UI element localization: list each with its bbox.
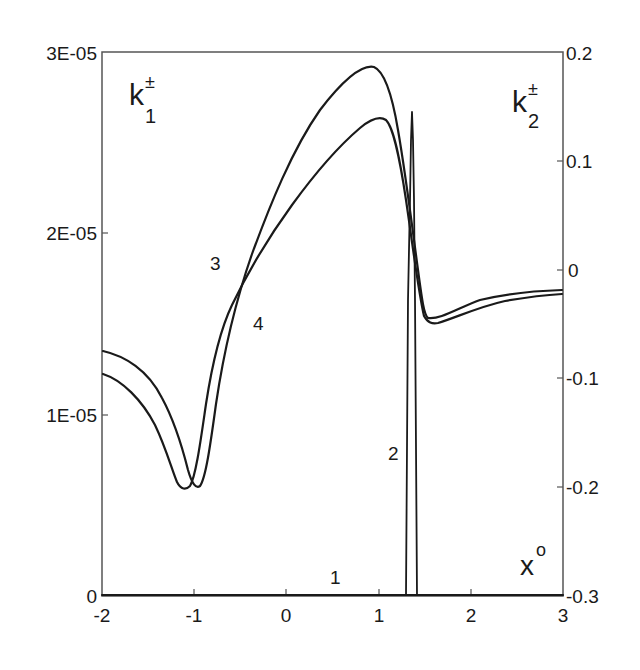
svg-text:0: 0 (86, 586, 97, 607)
svg-text:±: ± (145, 72, 155, 92)
svg-text:-0.2: -0.2 (566, 477, 599, 498)
right-axis-label: k ± 2 (512, 79, 539, 132)
svg-text:-2: -2 (94, 605, 111, 626)
curve-label-3: 3 (210, 253, 221, 274)
svg-text:1: 1 (145, 105, 156, 127)
svg-text:-0.1: -0.1 (566, 368, 599, 389)
svg-text:-0.3: -0.3 (566, 586, 599, 607)
curve-label-2: 2 (388, 443, 399, 464)
curve-3 (103, 67, 562, 487)
svg-text:1E-05: 1E-05 (46, 405, 97, 426)
svg-text:0.2: 0.2 (566, 43, 592, 64)
left-axis-label: k ± 1 (129, 72, 156, 127)
curve-label-1: 1 (330, 567, 341, 588)
right-axis-ticks (557, 161, 563, 487)
x-axis-tick-labels: -2 -1 0 1 2 3 (94, 605, 569, 626)
svg-text:k: k (129, 78, 145, 111)
svg-text:0: 0 (281, 605, 292, 626)
svg-text:2: 2 (528, 110, 539, 132)
left-axis-tick-labels: 0 1E-05 2E-05 3E-05 (46, 43, 97, 607)
svg-text:-1: -1 (186, 605, 203, 626)
svg-text:0.1: 0.1 (566, 151, 592, 172)
curve-4 (103, 118, 562, 489)
x-axis-label: x o (520, 540, 546, 581)
svg-text:k: k (512, 85, 528, 118)
chart-figure: -2 -1 0 1 2 3 0 1E-05 2E-05 3E-05 -0.3 -… (0, 0, 640, 670)
curve-labels: 1 2 3 4 (210, 253, 399, 588)
svg-text:2: 2 (466, 605, 477, 626)
svg-text:1: 1 (374, 605, 385, 626)
plot-frame (102, 52, 563, 596)
right-axis-tick-labels: -0.3 -0.2 -0.1 0 0.1 0.2 (566, 43, 599, 607)
svg-text:3E-05: 3E-05 (46, 43, 97, 64)
curve-2 (406, 112, 417, 595)
svg-text:3: 3 (558, 605, 569, 626)
svg-text:0: 0 (568, 260, 579, 281)
svg-text:±: ± (528, 79, 538, 99)
curve-label-4: 4 (253, 313, 264, 334)
svg-text:x: x (520, 550, 534, 581)
svg-text:2E-05: 2E-05 (46, 223, 97, 244)
svg-text:o: o (536, 540, 546, 560)
left-axis-ticks (102, 233, 108, 415)
